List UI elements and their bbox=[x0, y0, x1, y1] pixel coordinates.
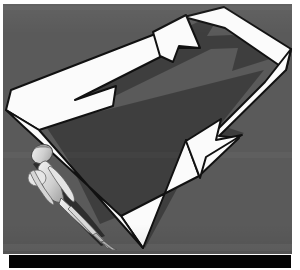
photo-plate bbox=[3, 4, 292, 254]
screenshot-root bbox=[0, 0, 300, 270]
human-figure-silhouette bbox=[17, 140, 122, 250]
figure-legs bbox=[59, 198, 117, 250]
bottom-black-bar bbox=[9, 255, 291, 268]
